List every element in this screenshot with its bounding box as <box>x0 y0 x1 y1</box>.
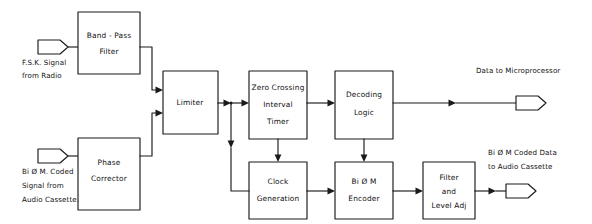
wire-encoder-to-filter <box>393 188 423 195</box>
band-pass-filter-label-line1: Band - Pass <box>87 31 131 40</box>
bi-phase-input-label-line2: Signal from <box>22 181 64 190</box>
wire-decoding-to-encoder <box>361 139 368 162</box>
fsk-input-label-line2: from Radio <box>22 71 62 80</box>
audio-cassette-output-label: Bi Ø M Coded Data to Audio Cassette <box>488 148 557 171</box>
block-diagram-svg: Band - Pass Filter Phase Corrector Limit… <box>0 0 592 224</box>
block-zero-crossing-interval-timer: Zero Crossing Interval Timer <box>249 71 307 139</box>
block-phase-corrector: Phase Corrector <box>78 138 140 210</box>
wire-zerocrossing-to-decoding <box>307 100 335 107</box>
fsk-signal-input-port <box>38 40 78 54</box>
wire-limiter-branch-to-clockgen <box>228 103 249 191</box>
limiter-label: Limiter <box>177 98 205 107</box>
cassette-output-label-line2: to Audio Cassette <box>488 162 552 171</box>
block-diagram-canvas: Band - Pass Filter Phase Corrector Limit… <box>0 0 592 224</box>
wire-decoding-to-microprocessor <box>393 100 516 107</box>
filter-level-adj-label-line3: Level Adj <box>432 201 467 210</box>
bi-phase-input-label-line1: Bi Ø M. Coded <box>22 167 74 176</box>
phase-corrector-label-line2: Corrector <box>91 174 128 183</box>
bi-phase-m-input-port <box>38 149 78 163</box>
decoding-logic-label-line2: Logic <box>354 108 374 117</box>
bi-phase-m-encoder-label-line1: Bi Ø M <box>352 177 377 186</box>
fsk-input-label-line1: F.S.K. Signal <box>22 58 66 67</box>
block-filter-and-level-adj: Filter and Level Adj <box>423 162 475 219</box>
wire-bandpass-to-limiter <box>140 47 163 93</box>
filter-level-adj-label-line2: and <box>442 187 457 196</box>
block-decoding-logic: Decoding Logic <box>335 71 393 139</box>
clock-generation-label-line1: Clock <box>268 177 289 186</box>
block-limiter: Limiter <box>163 71 218 134</box>
block-clock-generation: Clock Generation <box>249 162 307 219</box>
bi-phase-input-label-line3: Audio Cassette. <box>22 195 79 204</box>
filter-level-adj-label-line1: Filter <box>439 173 459 182</box>
zero-crossing-timer-label-line2: Interval <box>263 100 293 109</box>
clock-generation-label-line2: Generation <box>257 194 300 203</box>
cassette-output-label-line1: Bi Ø M Coded Data <box>488 148 557 157</box>
fsk-signal-input-label: F.S.K. Signal from Radio <box>22 58 66 80</box>
audio-cassette-output-port <box>506 184 536 198</box>
microprocessor-output-label: Data to Microprocessor <box>476 66 560 75</box>
wire-phasecorrector-to-limiter <box>140 110 163 156</box>
block-bi-phase-m-encoder: Bi Ø M Encoder <box>335 162 393 219</box>
microprocessor-output-port <box>516 96 546 110</box>
wire-limiter-to-zerocrossing <box>218 100 249 107</box>
bi-phase-m-input-label: Bi Ø M. Coded Signal from Audio Cassette… <box>22 167 79 204</box>
band-pass-filter-label-line2: Filter <box>99 47 119 56</box>
wire-filter-to-cassette-output <box>475 188 506 195</box>
wire-clockgen-to-encoder <box>307 188 335 195</box>
phase-corrector-label-line1: Phase <box>98 158 121 167</box>
bi-phase-m-encoder-label-line2: Encoder <box>348 194 380 203</box>
block-band-pass-filter: Band - Pass Filter <box>78 12 140 74</box>
zero-crossing-timer-label-line1: Zero Crossing <box>252 83 305 92</box>
microprocessor-output-label-line1: Data to Microprocessor <box>476 66 560 75</box>
decoding-logic-label-line1: Decoding <box>346 90 382 99</box>
zero-crossing-timer-label-line3: Timer <box>266 117 290 126</box>
wire-zerocrossing-to-clockgen <box>275 139 282 162</box>
